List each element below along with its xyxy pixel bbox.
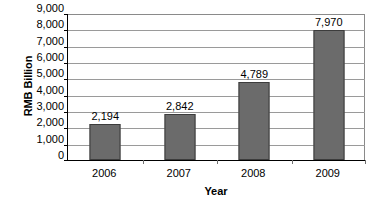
bar-2008[interactable] [239, 82, 270, 160]
bar-2009[interactable] [313, 30, 344, 160]
x-tick-label-2007: 2007 [167, 166, 191, 180]
y-tick-label-5000: 5,000 [20, 68, 64, 79]
bar-value-label-2007: 2,842 [166, 100, 194, 112]
x-tick-label-2009: 2009 [316, 166, 340, 180]
bar-group-2008: 4,789 [217, 14, 292, 160]
bar-value-label-2009: 7,970 [315, 16, 343, 28]
y-tick-label-0: 0 [20, 150, 64, 161]
y-axis-tick-labels: 0 1,000 2,000 3,000 4,000 5,000 6,000 7,… [20, 8, 64, 161]
y-tick-label-8000: 8,000 [20, 19, 64, 30]
x-tick-1 [143, 160, 144, 164]
x-tick-label-2006: 2006 [92, 166, 116, 180]
y-tick-label-2000: 2,000 [20, 117, 64, 128]
y-tick-label-4000: 4,000 [20, 84, 64, 95]
bar-value-label-2006: 2,194 [91, 110, 119, 122]
bar-value-label-2008: 4,789 [240, 68, 268, 80]
bar-group-2006: 2,194 [68, 14, 143, 160]
x-axis-title: Year [67, 184, 365, 198]
x-axis-tick-labels: 2006 2007 2008 2009 [67, 166, 365, 182]
x-tick-4 [365, 160, 366, 164]
y-tick-label-1000: 1,000 [20, 133, 64, 144]
x-tick-3 [292, 160, 293, 164]
bar-chart: RMB Billion 0 1,000 2,000 3,000 4,000 5,… [0, 0, 380, 207]
y-tick-label-7000: 7,000 [20, 35, 64, 46]
x-tick-label-2008: 2008 [241, 166, 265, 180]
y-tick-0 [64, 160, 68, 161]
bars-layer: 2,194 2,842 4,789 7,970 [68, 14, 365, 160]
bar-2007[interactable] [164, 114, 195, 160]
bar-group-2007: 2,842 [143, 14, 218, 160]
y-tick-label-9000: 9,000 [20, 3, 64, 14]
plot-area: 2,194 2,842 4,789 7,970 [67, 14, 365, 161]
bar-2006[interactable] [90, 124, 121, 160]
y-tick-label-6000: 6,000 [20, 52, 64, 63]
y-tick-label-3000: 3,000 [20, 101, 64, 112]
x-tick-2 [217, 160, 218, 164]
bar-group-2009: 7,970 [292, 14, 367, 160]
